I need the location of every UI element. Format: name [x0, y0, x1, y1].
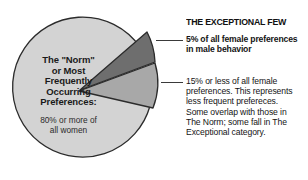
pie-chart-figure: The "Norm" or Most Frequently Occurring …: [0, 0, 308, 180]
leader-line-less-frequent: [161, 82, 183, 83]
callout-column: THE EXCEPTIONAL FEW 5% of all female pre…: [186, 0, 304, 180]
callout-less-frequent: 15% or less of all female preferences. T…: [186, 76, 301, 137]
leader-line-exceptional: [156, 40, 183, 41]
callout-heading: THE EXCEPTIONAL FEW: [186, 16, 286, 27]
pie-chart-svg: [0, 0, 175, 180]
callout-exceptional: 5% of all female preferences in male beh…: [186, 34, 301, 54]
pie-chart: The "Norm" or Most Frequently Occurring …: [0, 0, 175, 180]
